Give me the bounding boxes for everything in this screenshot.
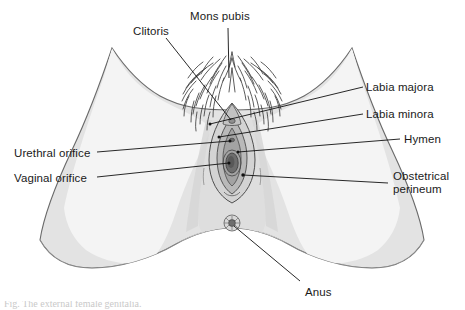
label-hymen: Hymen xyxy=(404,133,441,146)
label-vaginal-orifice: Vaginal orifice xyxy=(14,172,87,185)
caption-strip: Fig. The external female genitalia. xyxy=(0,301,465,310)
label-labia-majora: Labia majora xyxy=(366,81,434,94)
label-clitoris: Clitoris xyxy=(133,25,169,38)
figure-caption: Fig. The external female genitalia. xyxy=(4,301,142,309)
label-anus: Anus xyxy=(305,286,332,299)
label-urethral-orifice: Urethral orifice xyxy=(14,147,90,160)
label-labia-minora: Labia minora xyxy=(366,108,434,121)
label-obstetrical-perineum: Obstetrical perineum xyxy=(393,170,465,196)
label-mons-pubis: Mons pubis xyxy=(190,10,250,23)
anus-opening xyxy=(229,220,236,227)
